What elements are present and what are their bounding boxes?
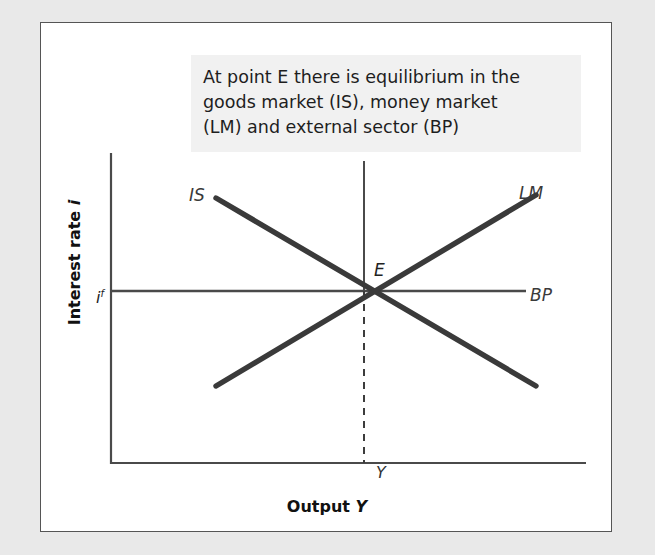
lm-curve-label: LM xyxy=(519,183,543,203)
y-axis-title: Interest rate i xyxy=(65,168,84,358)
y-axis-title-text: Interest rate xyxy=(65,205,84,325)
x-axis-title-variable: Y xyxy=(356,497,368,516)
x-axis-title: Output Y xyxy=(41,497,613,516)
is-curve-label: IS xyxy=(189,185,205,205)
x-axis-tick-label: Y xyxy=(351,463,411,482)
y-axis-title-variable: i xyxy=(65,200,84,205)
y-axis-tick-superscript: f xyxy=(100,288,104,299)
x-axis-title-text: Output xyxy=(287,497,356,516)
y-axis-tick-label: if xyxy=(96,288,104,307)
caption-text: At point E there is equilibrium in the g… xyxy=(203,65,569,140)
bp-curve-label: BP xyxy=(530,285,552,305)
page-background: At point E there is equilibrium in the g… xyxy=(0,0,655,555)
equilibrium-point-label: E xyxy=(374,260,385,280)
caption-box: At point E there is equilibrium in the g… xyxy=(191,55,581,152)
figure-panel: At point E there is equilibrium in the g… xyxy=(40,22,612,532)
